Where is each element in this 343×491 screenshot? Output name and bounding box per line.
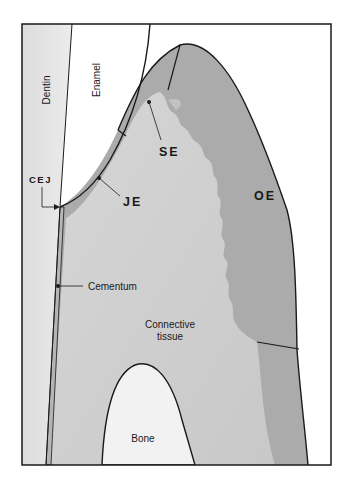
bone-label: Bone: [131, 433, 155, 444]
cej-label: CEJ: [29, 174, 52, 185]
oe-label: OE: [254, 189, 276, 203]
cementum-label: Cementum: [88, 281, 137, 292]
enamel-label: Enamel: [91, 63, 102, 97]
connective-tissue-label-1: Connective: [145, 319, 195, 330]
gingiva-diagram: Dentin Enamel SE JE CEJ OE Cementum Conn…: [0, 0, 343, 491]
je-label: JE: [123, 195, 142, 209]
dentin-label: Dentin: [41, 76, 52, 105]
connective-tissue-label-2: tissue: [157, 331, 184, 342]
se-label: SE: [159, 145, 180, 159]
